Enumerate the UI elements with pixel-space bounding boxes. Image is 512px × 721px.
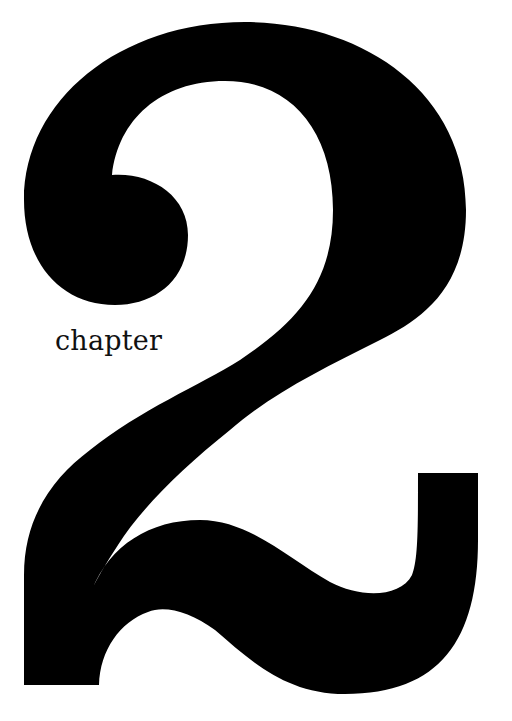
- chapter-label: chapter: [55, 326, 162, 356]
- chapter-opener-page: 2 chapter: [0, 0, 512, 721]
- numeral-body: [24, 22, 478, 694]
- chapter-number-2-glyph: 2: [0, 0, 512, 721]
